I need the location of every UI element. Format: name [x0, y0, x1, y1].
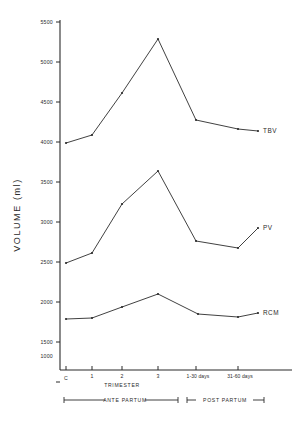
y-axis-ticks: [56, 22, 60, 382]
series-line-rcm: [66, 294, 238, 319]
y-tick-label: 3500: [40, 179, 53, 185]
series-leader-dot-tbv: [257, 130, 259, 132]
y-tick-label: 1000: [40, 353, 53, 359]
series-label-pv: PV: [263, 224, 273, 231]
figure-container: 5500 5000 4500 4000 3500 3000 2500 2000 …: [0, 0, 302, 428]
series-leader-dot-pv: [257, 227, 259, 229]
series-line-tbv: [66, 39, 238, 143]
post-partum-label: POST PARTUM: [203, 397, 247, 403]
ante-partum-label: ANTE PARTUM: [103, 397, 147, 403]
y-tick-label: 3000: [40, 219, 53, 225]
post-partum-bracket: POST PARTUM: [187, 397, 264, 403]
y-tick-label: 4500: [40, 99, 53, 105]
series-markers-tbv: [65, 38, 239, 144]
series-line-pv: [66, 171, 238, 263]
y-tick-label: 5000: [40, 59, 53, 65]
y-tick-label: 1500: [40, 339, 53, 345]
series-markers-pv: [65, 170, 239, 264]
y-axis-tick-labels: 5500 5000 4500 4000 3500 3000 2500 2000 …: [40, 19, 53, 359]
ante-partum-bracket: ANTE PARTUM: [64, 397, 178, 403]
x-axis-title: TRIMESTER: [104, 382, 140, 388]
x-tick-label-tri1: 1: [90, 373, 93, 379]
series-markers-rcm: [65, 293, 239, 320]
series-label-tbv: TBV: [263, 127, 277, 134]
x-tick-label-control: C: [64, 375, 68, 381]
x-tick-label-tri2: 2: [120, 373, 123, 379]
y-axis-title: VOLUME (ml): [12, 178, 22, 252]
x-axis-tick-labels: C 1 2 3 1-30 days 31-60 days: [64, 373, 253, 381]
series-label-rcm: RCM: [263, 309, 279, 316]
y-tick-label: 5500: [40, 19, 53, 25]
x-tick-label-post2: 31-60 days: [227, 373, 253, 379]
x-tick-label-tri3: 3: [156, 373, 159, 379]
series-leader-dot-rcm: [257, 312, 259, 314]
y-tick-label: 4000: [40, 139, 53, 145]
line-chart: 5500 5000 4500 4000 3500 3000 2500 2000 …: [0, 0, 302, 428]
series-leader-tbv: [238, 129, 258, 131]
y-tick-label: 2500: [40, 259, 53, 265]
x-tick-label-post1: 1-30 days: [187, 373, 210, 379]
x-axis-ticks: [66, 366, 238, 370]
y-tick-label: 2000: [40, 299, 53, 305]
series-leader-pv: [238, 228, 258, 248]
series-leader-rcm: [238, 313, 258, 317]
